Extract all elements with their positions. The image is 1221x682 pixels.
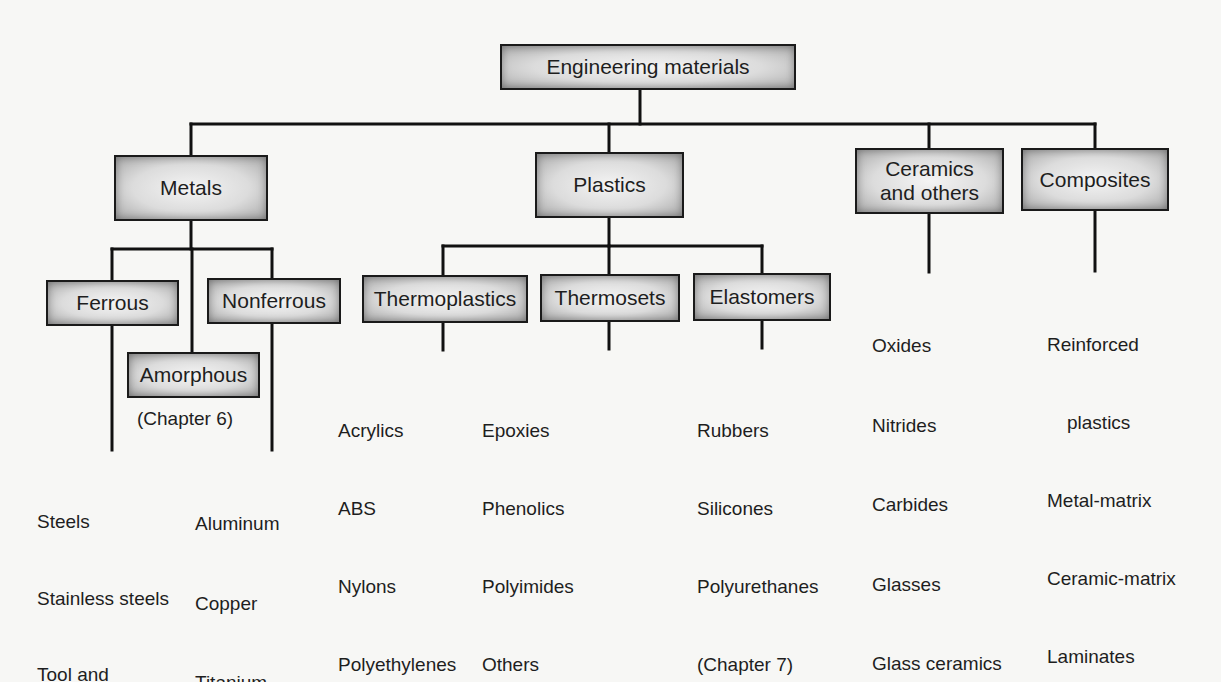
amorphous-chapter-note: (Chapter 6) — [137, 407, 233, 431]
list-item: Titanium — [195, 670, 291, 682]
list-item: Phenolics — [482, 496, 578, 522]
node-label: Thermosets — [555, 286, 666, 310]
list-item: Polyethylenes — [338, 652, 456, 678]
node-composites: Composites — [1021, 148, 1169, 211]
node-thermosets: Thermosets — [540, 274, 680, 322]
list-thermoplastics: Acrylics ABS Nylons Polyethylenes PVC Ot… — [338, 366, 456, 682]
node-thermoplastics: Thermoplastics — [362, 275, 528, 323]
list-item: Reinforced — [1047, 332, 1176, 358]
connector-lines — [0, 0, 1221, 682]
list-item: Steels — [37, 509, 169, 535]
list-item: Silicones — [697, 496, 818, 522]
list-thermosets: Epoxies Phenolics Polyimides Others (Cha… — [482, 366, 578, 682]
node-label: Ceramics and others — [880, 157, 979, 205]
list-item: Nitrides — [872, 413, 1002, 440]
node-label: Ferrous — [76, 291, 148, 315]
list-item: Acrylics — [338, 418, 456, 444]
node-nonferrous: Nonferrous — [207, 278, 341, 324]
list-item: Rubbers — [697, 418, 818, 444]
list-item: Oxides — [872, 333, 1002, 360]
list-ceramics: Oxides Nitrides Carbides Glasses Glass c… — [872, 280, 1002, 682]
list-elastomers: Rubbers Silicones Polyurethanes (Chapter… — [697, 366, 818, 682]
list-item: Others — [482, 652, 578, 678]
list-item: Carbides — [872, 492, 1002, 519]
list-item: Ceramic-matrix — [1047, 566, 1176, 592]
list-item: Glass ceramics — [872, 651, 1002, 678]
node-label: Plastics — [573, 173, 645, 197]
node-plastics: Plastics — [535, 152, 684, 218]
node-label: Elastomers — [709, 285, 814, 309]
list-item: Tool and — [37, 662, 169, 682]
node-label: Nonferrous — [222, 289, 326, 313]
list-item: Glasses — [872, 572, 1002, 599]
node-label: Engineering materials — [546, 55, 749, 79]
node-amorphous: Amorphous — [127, 352, 260, 398]
node-ceramics: Ceramics and others — [855, 148, 1004, 214]
list-item: Stainless steels — [37, 586, 169, 612]
node-engineering-materials: Engineering materials — [500, 44, 796, 90]
node-elastomers: Elastomers — [693, 273, 831, 321]
node-label: Thermoplastics — [374, 287, 516, 311]
list-item: Epoxies — [482, 418, 578, 444]
list-item: Aluminum — [195, 511, 291, 538]
list-item: Laminates — [1047, 644, 1176, 670]
node-metals: Metals — [114, 155, 268, 221]
node-label: Metals — [160, 176, 222, 200]
list-item: Metal-matrix — [1047, 488, 1176, 514]
node-ferrous: Ferrous — [46, 280, 179, 326]
list-item: ABS — [338, 496, 456, 522]
list-item: Polyurethanes — [697, 574, 818, 600]
node-label: Composites — [1040, 168, 1151, 192]
list-composites: Reinforced plastics Metal-matrix Ceramic… — [1047, 280, 1176, 682]
list-item: Nylons — [338, 574, 456, 600]
list-nonferrous: Aluminum Copper Titanium Tungsten Others… — [195, 458, 291, 682]
list-item: (Chapter 7) — [697, 652, 818, 678]
list-item: plastics — [1047, 410, 1176, 436]
node-label: Amorphous — [140, 363, 247, 387]
list-ferrous: Steels Stainless steels Tool and die ste… — [37, 458, 169, 682]
list-item: Polyimides — [482, 574, 578, 600]
list-item: Copper — [195, 591, 291, 618]
